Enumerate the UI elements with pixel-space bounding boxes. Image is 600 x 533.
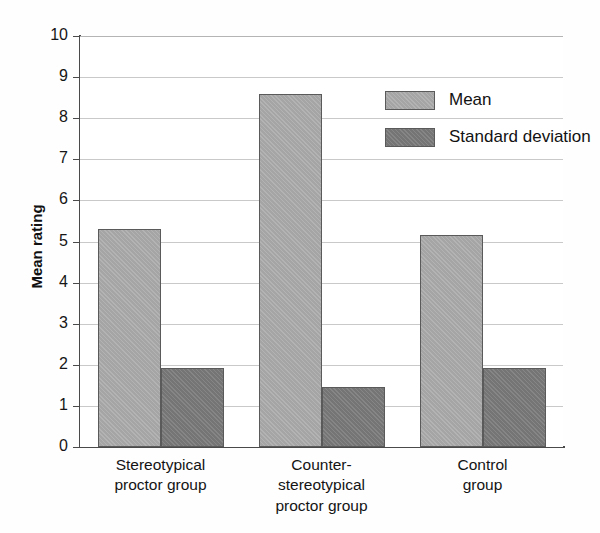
- y-axis-tick: [73, 365, 80, 366]
- y-axis-tick: [73, 159, 80, 160]
- legend-label-standard-deviation: Standard deviation: [449, 127, 591, 147]
- y-axis-tick: [73, 200, 80, 201]
- y-axis-tick: [73, 283, 80, 284]
- y-axis-tick-label: 3: [42, 315, 68, 331]
- y-axis-tick-label: 6: [42, 191, 68, 207]
- gridline: [80, 36, 563, 37]
- y-axis-tick-label: 5: [42, 233, 68, 249]
- x-axis-category-label: Control group: [393, 455, 573, 496]
- y-axis-tick: [73, 118, 80, 119]
- y-axis-tick: [73, 406, 80, 407]
- y-axis-tick: [73, 447, 80, 448]
- gridline: [80, 77, 563, 78]
- y-axis-tick-label: 9: [42, 68, 68, 84]
- y-axis-tick-label: 10: [42, 27, 68, 43]
- gridline: [80, 200, 563, 201]
- legend-swatch-mean: [385, 91, 435, 110]
- legend-item-standard-deviation: Standard deviation: [385, 127, 591, 147]
- bar: [259, 94, 322, 447]
- y-axis-tick: [73, 242, 80, 243]
- x-axis-category-label: Stereotypical proctor group: [71, 455, 251, 496]
- bar: [161, 368, 224, 447]
- bar-chart: Mean rating 109876543210 Stereotypical p…: [0, 0, 600, 533]
- y-axis-tick: [73, 36, 80, 37]
- legend-swatch-standard-deviation: [385, 128, 435, 147]
- legend-label-mean: Mean: [449, 90, 492, 110]
- y-axis-tick-label: 1: [42, 397, 68, 413]
- y-axis-tick-label: 2: [42, 356, 68, 372]
- y-axis-tick-label: 7: [42, 150, 68, 166]
- bar: [420, 235, 483, 447]
- y-axis-tick-label: 8: [42, 109, 68, 125]
- y-axis-tick: [73, 77, 80, 78]
- x-axis-category-label: Counter- stereotypical proctor group: [232, 455, 412, 516]
- bar: [322, 387, 385, 447]
- y-axis-tick-label: 4: [42, 274, 68, 290]
- y-axis-tick-label: 0: [42, 438, 68, 454]
- legend-item-mean: Mean: [385, 90, 591, 110]
- bar: [483, 368, 546, 447]
- chart-legend: Mean Standard deviation: [385, 90, 591, 164]
- y-axis-tick: [73, 324, 80, 325]
- bar: [98, 229, 161, 447]
